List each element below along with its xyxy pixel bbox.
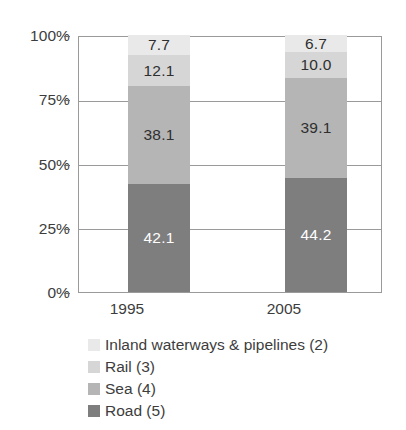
bar-segment-value-label: 6.7: [305, 36, 327, 52]
stacked-bar-chart-figure: 0% 25% 50% 75% 100% 7.712.138.142.1 6.71…: [0, 0, 406, 430]
bar-segment[interactable]: 42.1: [128, 184, 190, 292]
bar-segment[interactable]: 44.2: [285, 178, 347, 292]
bar-segment[interactable]: 6.7: [285, 35, 347, 52]
legend-swatch-icon: [88, 383, 100, 395]
y-tick-label-25: 25%: [6, 220, 70, 238]
bar-segment[interactable]: 10.0: [285, 52, 347, 78]
y-tick-mark-75: [64, 100, 70, 101]
bar-segment-value-label: 42.1: [144, 230, 175, 246]
legend-swatch-icon: [88, 339, 100, 351]
y-tick-mark-0: [64, 293, 70, 294]
x-tick-label-1995: 1995: [72, 300, 182, 318]
legend-item-label: Road (5): [105, 403, 165, 419]
bar-segment-value-label: 39.1: [301, 120, 332, 136]
legend-item[interactable]: Sea (4): [88, 378, 398, 400]
bar-segment[interactable]: 12.1: [128, 55, 190, 86]
legend-item-label: Rail (3): [105, 359, 155, 375]
bar-segment[interactable]: 38.1: [128, 86, 190, 184]
legend-item-label: Sea (4): [105, 381, 156, 397]
y-axis: 0% 25% 50% 75% 100%: [0, 36, 70, 293]
legend-swatch-icon: [88, 405, 100, 417]
y-tick-mark-50: [64, 165, 70, 166]
y-tick-mark-25: [64, 229, 70, 230]
bar-segment-value-label: 38.1: [144, 127, 175, 143]
y-tick-label-0: 0%: [6, 284, 70, 302]
legend-item[interactable]: Rail (3): [88, 356, 398, 378]
bar-2005[interactable]: 6.710.039.144.2: [285, 35, 347, 292]
legend-swatch-icon: [88, 361, 100, 373]
bar-segment-value-label: 44.2: [301, 227, 332, 243]
bar-1995[interactable]: 7.712.138.142.1: [128, 35, 190, 292]
legend-item[interactable]: Inland waterways & pipelines (2): [88, 334, 398, 356]
x-tick-label-2005: 2005: [229, 300, 339, 318]
bar-segment-value-label: 7.7: [148, 37, 170, 53]
y-tick-label-100: 100%: [6, 27, 70, 45]
legend: Inland waterways & pipelines (2)Rail (3)…: [88, 334, 398, 422]
bar-segment-value-label: 10.0: [301, 57, 332, 73]
plot-area: 7.712.138.142.1 6.710.039.144.2: [78, 36, 382, 293]
y-tick-mark-100: [64, 36, 70, 37]
y-tick-label-50: 50%: [6, 156, 70, 174]
legend-item[interactable]: Road (5): [88, 400, 398, 422]
y-tick-label-75: 75%: [6, 91, 70, 109]
bar-segment-value-label: 12.1: [144, 63, 175, 79]
legend-item-label: Inland waterways & pipelines (2): [105, 337, 328, 353]
bar-segment[interactable]: 7.7: [128, 35, 190, 55]
bar-segment[interactable]: 39.1: [285, 78, 347, 178]
